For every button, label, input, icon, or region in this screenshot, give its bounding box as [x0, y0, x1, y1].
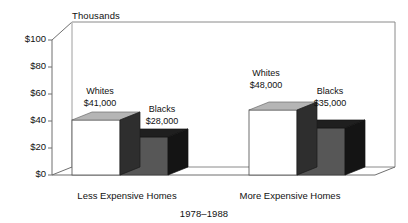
bar-more-expensive-whites: [249, 102, 317, 175]
bar-annotation-less-expensive-whites: Whites $41,000: [66, 86, 134, 109]
floor-right-edge: [375, 167, 395, 175]
bar-annotation-series-name: Whites: [66, 86, 134, 98]
y-axis-tick-label-0: $0: [4, 169, 46, 180]
bar-annotation-value: $35,000: [296, 98, 364, 110]
bar-annotation-more-expensive-whites: Whites $48,000: [232, 68, 300, 91]
y-axis-depth-top: [52, 22, 72, 40]
y-axis-ticks: [48, 40, 52, 175]
y-axis-depth-bottom: [52, 167, 72, 175]
y-axis-title: Thousands: [72, 11, 120, 22]
bar-annotation-less-expensive-blacks: Blacks $28,000: [128, 104, 196, 127]
y-axis-tick-label-60: $60: [4, 88, 46, 99]
y-axis-tick-label-40: $40: [4, 115, 46, 126]
bar-annotation-value: $41,000: [66, 98, 134, 110]
chart-canvas: [0, 0, 408, 223]
x-axis-category-label-less-expensive: Less Expensive Homes: [52, 191, 202, 202]
y-axis-tick-label-20: $20: [4, 142, 46, 153]
bar-annotation-more-expensive-blacks: Blacks $35,000: [296, 86, 364, 109]
bar-annotation-value: $48,000: [232, 80, 300, 92]
bar-chart: Thousands $100 $80 $60 $40 $20 $0 Whites…: [0, 0, 408, 223]
bar-annotation-series-name: Blacks: [128, 104, 196, 116]
bar-annotation-series-name: Blacks: [296, 86, 364, 98]
bar-annotation-value: $28,000: [128, 116, 196, 128]
x-axis-category-label-more-expensive: More Expensive Homes: [210, 191, 370, 202]
y-axis-tick-label-80: $80: [4, 61, 46, 72]
y-axis-tick-label-100: $100: [4, 34, 46, 45]
chart-caption: 1978–1988: [124, 209, 284, 220]
bar-annotation-series-name: Whites: [232, 68, 300, 80]
